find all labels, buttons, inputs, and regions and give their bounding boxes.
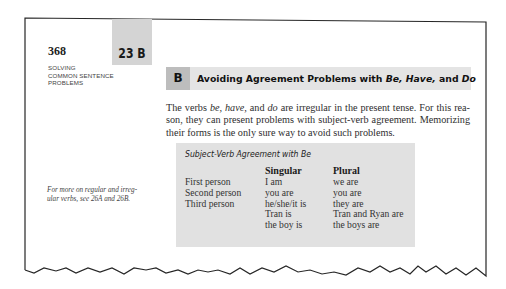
section-title-text: and: [436, 73, 462, 84]
body-text: The verbs: [166, 102, 210, 113]
body-text: and: [247, 102, 268, 113]
margin-note-line: For more on regular and irreg-: [47, 186, 157, 195]
margin-note-line: ular verbs, see 26A and 26B.: [47, 195, 157, 204]
section-title-italic: Do: [462, 73, 476, 84]
running-head-line: COMMON SENTENCE: [48, 72, 114, 80]
table-cell: Third person: [185, 199, 241, 210]
section-title-text: Avoiding Agreement Problems with: [197, 73, 386, 84]
body-line: son, they can present problems with subj…: [166, 114, 470, 126]
table-title: Subject-Verb Agreement with Be: [185, 149, 311, 159]
table-cell: you are: [265, 188, 306, 199]
table-cell: the boys are: [333, 220, 403, 231]
body-text: are irregular in the present tense. For …: [278, 102, 470, 113]
section-letter: B: [166, 67, 190, 90]
body-line: their forms is the only sure way to avoi…: [166, 127, 470, 139]
running-head-line: SOLVING: [48, 64, 114, 72]
running-head: SOLVING COMMON SENTENCE PROBLEMS: [48, 64, 114, 87]
body-line: The verbs be, have, and do are irregular…: [166, 102, 470, 114]
table-column-plural: Plural we are you are they are Tran and …: [333, 166, 403, 231]
body-paragraph: The verbs be, have, and do are irregular…: [166, 102, 470, 139]
margin-note: For more on regular and irreg- ular verb…: [47, 186, 157, 205]
chapter-tab-label: 23 B: [116, 45, 147, 61]
section-title: Avoiding Agreement Problems with Be, Hav…: [197, 67, 476, 90]
running-head-line: PROBLEMS: [48, 79, 114, 87]
agreement-table: Subject-Verb Agreement with Be First per…: [176, 143, 415, 247]
body-italic: be, have,: [210, 102, 247, 113]
table-column-singular: Singular I am you are he/she/it is Tran …: [265, 166, 306, 231]
table-cell: you are: [333, 188, 403, 199]
section-title-italic: Be, Have,: [386, 73, 436, 84]
table-cell: Second person: [185, 188, 241, 199]
section-heading: B Avoiding Agreement Problems with Be, H…: [166, 67, 471, 90]
chapter-tab: 23 B: [112, 19, 152, 65]
body-italic: do: [268, 102, 278, 113]
table-column-person: First person Second person Third person: [185, 166, 241, 209]
table-cell: the boy is: [265, 220, 306, 231]
page-number: 368: [48, 44, 66, 59]
